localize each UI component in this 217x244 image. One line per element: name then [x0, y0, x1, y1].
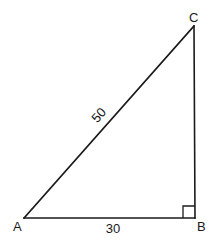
side-ac-hypotenuse: [24, 26, 194, 218]
vertex-label-a: A: [13, 219, 22, 234]
right-angle-marker-icon: [183, 206, 195, 218]
right-triangle-diagram: A B C 50 30: [0, 0, 217, 244]
side-label-ac: 50: [88, 105, 109, 126]
vertex-label-c: C: [189, 10, 198, 25]
side-bc: [194, 26, 195, 218]
side-label-ab: 30: [106, 221, 120, 236]
vertex-label-b: B: [197, 219, 206, 234]
